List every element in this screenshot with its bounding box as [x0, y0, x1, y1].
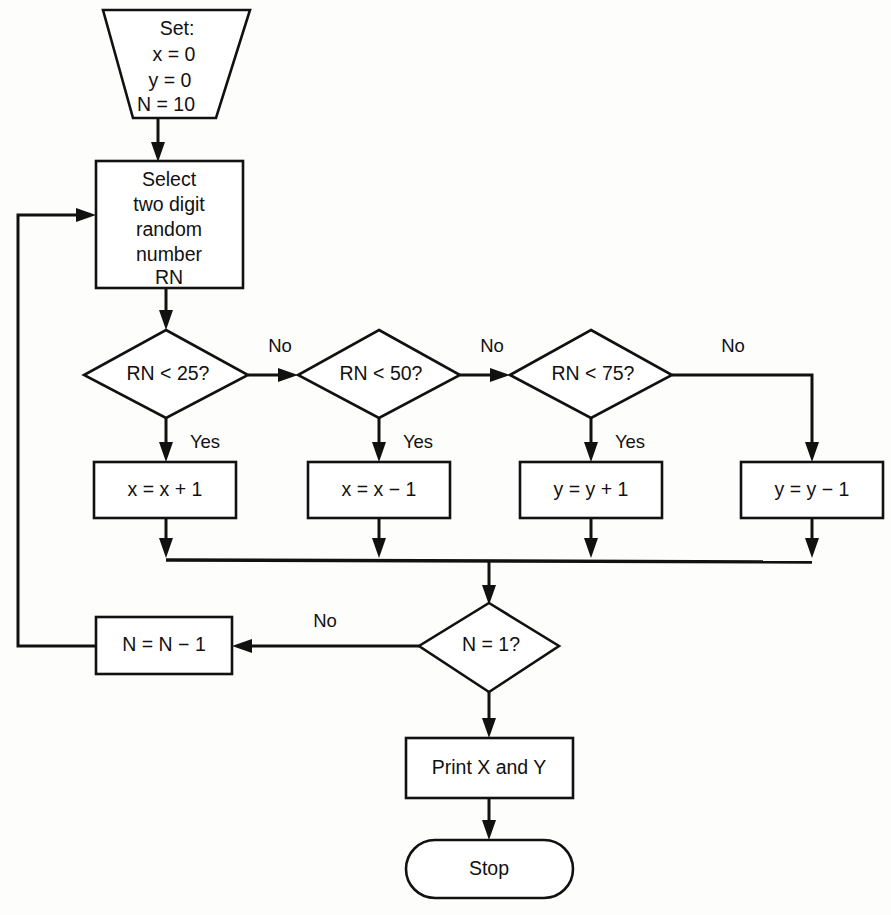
arrowhead-icon [584, 442, 598, 462]
node-print-results[interactable]: Print X and Y [406, 738, 573, 798]
node-action-x-decrement[interactable]: x = x − 1 [308, 462, 450, 518]
arrowhead-icon [159, 538, 173, 558]
a4-label: y = y − 1 [775, 478, 850, 500]
init-line-3: y = 0 [149, 69, 192, 91]
label-d2-no: No [480, 335, 504, 356]
arrowhead-icon [76, 208, 96, 222]
arrowhead-icon [159, 442, 173, 462]
edge-decn-to-select-loop [18, 208, 96, 646]
d1-label: RN < 25? [127, 362, 210, 384]
label-d3-yes: Yes [615, 431, 645, 452]
label-d4-no: No [313, 610, 337, 631]
d3-label: RN < 75? [552, 362, 635, 384]
init-line-1: Set: [160, 17, 195, 39]
select-line-3: random [136, 218, 202, 240]
print-label: Print X and Y [432, 756, 547, 778]
arrowhead-icon [482, 820, 496, 840]
edge-a1-to-bus [159, 518, 173, 558]
decn-label: N = N − 1 [122, 633, 205, 655]
edge-a3-to-bus [584, 518, 598, 558]
a3-label: y = y + 1 [554, 478, 629, 500]
edge-a2-to-bus [372, 518, 386, 558]
node-decision-rn-lt-25[interactable]: RN < 25? [84, 330, 248, 418]
edge-d2-no-to-d3 [460, 368, 510, 382]
flowchart-svg: Set: x = 0 y = 0 N = 10 Select two digit… [0, 0, 891, 915]
node-decision-rn-lt-75[interactable]: RN < 75? [510, 330, 672, 418]
arrowhead-icon [151, 142, 165, 162]
label-d1-yes: Yes [190, 431, 220, 452]
arrowhead-icon [278, 368, 298, 382]
edge-d3-yes-to-a3 [584, 418, 598, 462]
edge-d1-yes-to-a1 [159, 418, 173, 462]
a1-label: x = x + 1 [128, 478, 203, 500]
node-initialization[interactable]: Set: x = 0 y = 0 N = 10 [103, 10, 250, 118]
arrowhead-icon [232, 639, 252, 653]
select-line-2: two digit [133, 193, 205, 215]
edge-d1-no-to-d2 [248, 368, 298, 382]
edge-d2-yes-to-a2 [372, 418, 386, 462]
arrowhead-icon [159, 310, 173, 330]
arrowhead-icon [490, 368, 510, 382]
edge-select-to-d1 [159, 288, 173, 330]
edge-bus-to-d4 [482, 561, 496, 605]
node-action-n-decrement[interactable]: N = N − 1 [96, 617, 232, 674]
label-d3-no: No [721, 335, 745, 356]
edge-d4-to-print [482, 692, 496, 738]
edge-d3-no-to-a4 [672, 375, 819, 462]
arrowhead-icon [372, 442, 386, 462]
select-line-1: Select [142, 168, 197, 190]
node-action-y-increment[interactable]: y = y + 1 [520, 462, 662, 518]
label-d2-yes: Yes [403, 431, 433, 452]
d2-label: RN < 50? [340, 362, 423, 384]
init-line-4: N = 10 [137, 93, 195, 115]
edge-a4-to-bus [805, 518, 819, 558]
node-decision-rn-lt-50[interactable]: RN < 50? [298, 330, 460, 418]
init-line-2: x = 0 [153, 43, 196, 65]
select-line-5: RN [155, 266, 183, 288]
edge-d4-no-to-decn [232, 639, 419, 653]
arrowhead-icon [805, 442, 819, 462]
node-action-y-decrement[interactable]: y = y − 1 [741, 462, 883, 518]
edge-print-to-stop [482, 798, 496, 840]
arrowhead-icon [805, 538, 819, 558]
flowchart-canvas: Set: x = 0 y = 0 N = 10 Select two digit… [0, 0, 891, 915]
a2-label: x = x − 1 [342, 478, 417, 500]
stop-label: Stop [469, 857, 509, 879]
arrowhead-icon [584, 538, 598, 558]
node-decision-n-equals-1[interactable]: N = 1? [419, 603, 559, 692]
node-select-random-number[interactable]: Select two digit random number RN [96, 161, 243, 288]
arrowhead-icon [482, 718, 496, 738]
node-action-x-increment[interactable]: x = x + 1 [94, 462, 236, 518]
node-stop-terminator[interactable]: Stop [406, 840, 573, 898]
select-line-4: number [136, 243, 203, 265]
arrowhead-icon [372, 538, 386, 558]
d4-label: N = 1? [462, 633, 520, 655]
label-d1-no: No [268, 335, 292, 356]
edge-init-to-select [151, 118, 165, 162]
